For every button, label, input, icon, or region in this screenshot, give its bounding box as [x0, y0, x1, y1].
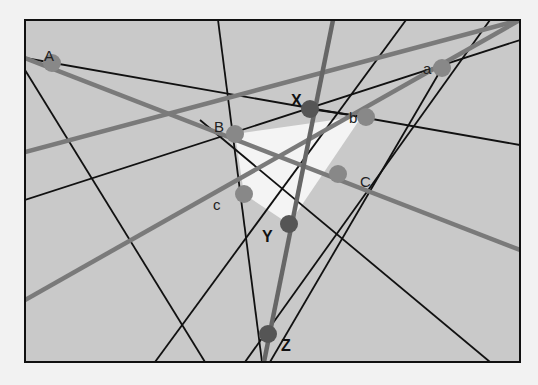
label-a: a	[423, 60, 432, 77]
point-C	[329, 165, 347, 183]
point-B	[226, 125, 244, 143]
label-b: b	[349, 109, 357, 126]
point-Y	[280, 215, 298, 233]
label-C: C	[360, 173, 371, 190]
point-Z	[259, 325, 277, 343]
label-B: B	[214, 118, 224, 135]
label-X: X	[291, 92, 302, 109]
diagram-canvas: AaBbCcXYZ	[0, 0, 538, 385]
point-c	[235, 185, 253, 203]
point-a	[433, 59, 451, 77]
point-b	[357, 108, 375, 126]
label-Y: Y	[262, 228, 273, 245]
point-X	[301, 100, 319, 118]
label-A: A	[44, 47, 54, 64]
label-Z: Z	[281, 337, 291, 354]
label-c: c	[213, 196, 221, 213]
